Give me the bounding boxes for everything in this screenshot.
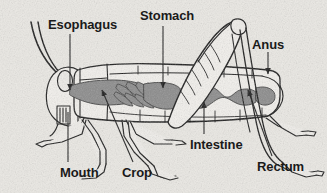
- label-anus: Anus: [252, 38, 284, 51]
- label-intestine: Intestine: [190, 138, 243, 151]
- label-esophagus: Esophagus: [48, 18, 117, 31]
- label-crop: Crop: [122, 166, 152, 179]
- label-rectum: Rectum: [257, 160, 304, 173]
- hind-leg-knee: [231, 19, 246, 35]
- label-stomach: Stomach: [140, 9, 194, 22]
- label-mouth: Mouth: [60, 166, 98, 179]
- grasshopper-anatomy-diagram: Esophagus Stomach Anus Intestine Rectum …: [0, 0, 327, 193]
